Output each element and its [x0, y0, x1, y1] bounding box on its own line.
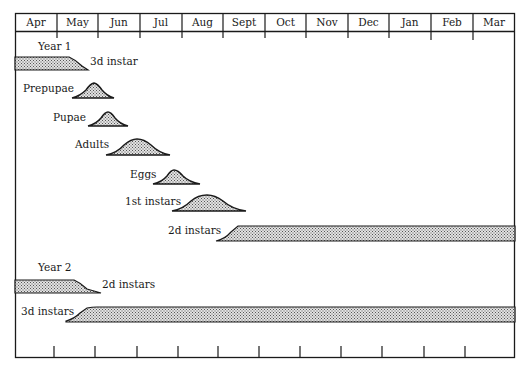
month-label: Jan: [400, 16, 418, 28]
stage-eggs: [153, 170, 200, 184]
month-label: Aug: [191, 16, 213, 28]
life-cycle-chart: Apr May Jun Jul Aug Sept Oct Nov Dec Jan…: [0, 0, 531, 373]
month-label: Sept: [232, 16, 257, 28]
month-label: Jul: [153, 16, 169, 28]
stage-label: 2d instars: [168, 224, 221, 236]
stage-label: Eggs: [130, 168, 157, 180]
month-label: Dec: [358, 16, 379, 28]
month-label: Apr: [25, 16, 46, 28]
stage-y1-3d-instar: [15, 57, 88, 70]
stage-pupae: [88, 112, 128, 126]
month-label: Mar: [483, 16, 506, 28]
month-label: Feb: [442, 16, 462, 28]
stage-prepupae: [72, 83, 114, 98]
stage-adults: [106, 139, 170, 155]
stage-label: 3d instars: [21, 305, 74, 317]
bottom-ticks: [54, 346, 465, 357]
stage-label: 1st instars: [125, 195, 181, 207]
stage-label: Prepupae: [23, 82, 74, 94]
stage-label: 2d instars: [102, 278, 155, 290]
section-label-year1: Year 1: [37, 40, 72, 52]
month-label: Jun: [109, 16, 128, 28]
month-label: Nov: [316, 16, 338, 28]
stage-label: Adults: [74, 138, 109, 150]
stage-y2-3d-instars: [66, 307, 515, 322]
month-label: Oct: [276, 16, 295, 28]
month-label: May: [66, 16, 89, 28]
stage-label: 3d instar: [90, 55, 139, 67]
stage-y2-2d-instars: [15, 280, 101, 293]
section-label-year2: Year 2: [37, 261, 72, 273]
stage-y1-2d-instars: [216, 226, 515, 241]
stage-1st-instars: [172, 195, 246, 211]
stage-label: Pupae: [53, 111, 86, 123]
